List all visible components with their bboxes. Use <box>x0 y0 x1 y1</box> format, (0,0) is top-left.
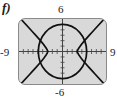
plot-canvas <box>19 19 106 84</box>
figure-panel: f) <box>0 0 117 101</box>
calculator-screen <box>18 18 107 85</box>
x-max-label: 9 <box>110 47 116 58</box>
y-max-label: 6 <box>58 4 64 15</box>
axes-group <box>19 19 106 84</box>
y-min-label: -6 <box>55 87 64 98</box>
x-min-label: -9 <box>0 47 9 58</box>
part-label: f) <box>2 1 11 15</box>
